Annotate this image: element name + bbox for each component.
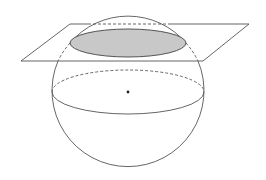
equator-front-arc [52, 92, 204, 114]
sphere-right-hidden-arc [186, 43, 198, 61]
equator-back-arc [52, 70, 204, 92]
sphere-plane-diagram [0, 0, 266, 180]
plane-right-edge [203, 24, 249, 61]
sphere-left-hidden-arc [58, 43, 70, 61]
cross-section-circle [70, 29, 186, 57]
sphere-center-point [127, 91, 130, 94]
plane-left-edge [21, 24, 70, 61]
